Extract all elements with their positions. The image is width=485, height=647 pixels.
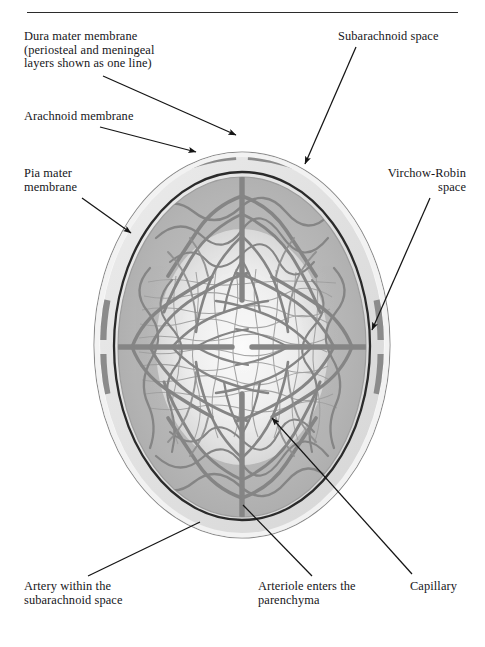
leader-dura-mater	[103, 76, 236, 135]
label-dura-mater: Dura mater membrane (periosteal and meni…	[24, 30, 224, 71]
label-pia-mater: Pia mater membrane	[24, 167, 144, 194]
label-arteriole-enters-parenchyma: Arteriole enters the parenchyma	[258, 580, 423, 607]
label-subarachnoid-space: Subarachnoid space	[338, 30, 483, 44]
artery-right-upper	[377, 300, 381, 340]
label-capillary: Capillary	[410, 580, 482, 594]
label-arachnoid-membrane: Arachnoid membrane	[24, 110, 209, 124]
leader-pia-mater	[82, 198, 131, 233]
label-artery-within-subarachnoid-space: Artery within the subarachnoid space	[24, 580, 199, 607]
leader-artery-subarachnoid	[88, 522, 200, 576]
leader-virchow-robin	[372, 198, 430, 330]
label-virchow-robin-space: Virchow-Robin space	[338, 167, 466, 194]
artery-left-upper	[103, 300, 107, 340]
leader-arachnoid	[100, 127, 196, 152]
leader-subarachnoid-space	[305, 47, 356, 164]
meninges-diagram	[0, 0, 485, 647]
